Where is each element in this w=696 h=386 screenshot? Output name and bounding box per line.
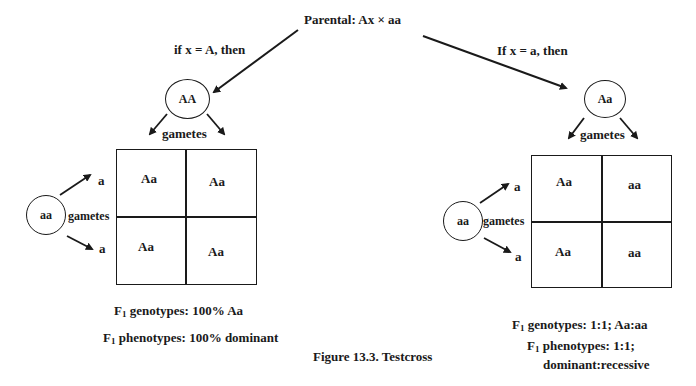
right-other-parent-circle: aa bbox=[443, 201, 483, 241]
right-parent-genotype: Aa bbox=[598, 92, 613, 107]
left-gametes-side-label: gametes bbox=[68, 210, 109, 222]
right-cell-r1c1: Aa bbox=[556, 175, 572, 188]
left-cell-r1c1: Aa bbox=[141, 172, 157, 185]
left-gametes-top-label: gametes bbox=[162, 127, 207, 140]
left-side-gamete-2: a bbox=[99, 242, 106, 255]
arrow-to-left-parent bbox=[214, 30, 298, 92]
right-grid-hline bbox=[532, 221, 671, 223]
right-cell-r2c2: aa bbox=[628, 246, 641, 259]
parental-label: Parental: Ax × aa bbox=[304, 13, 401, 26]
right-phenotypes-line2: dominant:recessive bbox=[543, 358, 650, 371]
right-side-gamete-1: a bbox=[514, 180, 521, 193]
arrow-left-gamete-2 bbox=[207, 114, 224, 134]
left-genotypes-summary: F1 genotypes: 100% Aa bbox=[114, 304, 243, 319]
left-genotypes-prefix: F bbox=[114, 303, 122, 318]
left-side-gamete-1: a bbox=[98, 174, 105, 187]
right-genotypes-text: genotypes: 1:1; Aa:aa bbox=[524, 317, 647, 332]
right-phenotypes-summary: F1 phenotypes: 1:1; bbox=[527, 339, 635, 354]
right-genotypes-prefix: F bbox=[512, 317, 520, 332]
left-genotypes-text: genotypes: 100% Aa bbox=[126, 303, 243, 318]
left-other-parent-circle: aa bbox=[26, 195, 66, 235]
right-parent-circle: Aa bbox=[584, 80, 626, 118]
left-phenotypes-summary: F1 phenotypes: 100% dominant bbox=[103, 331, 278, 346]
right-side-gamete-2: a bbox=[515, 250, 522, 263]
right-gametes-top-label: gametes bbox=[580, 128, 625, 141]
right-cell-r2c1: Aa bbox=[555, 245, 571, 258]
left-other-parent-genotype: aa bbox=[40, 208, 52, 223]
right-genotypes-summary: F1 genotypes: 1:1; Aa:aa bbox=[512, 318, 648, 333]
left-grid-hline bbox=[117, 216, 256, 218]
left-parent-genotype: AA bbox=[179, 92, 196, 107]
right-gametes-side-label: gametes bbox=[483, 215, 524, 227]
right-cell-r1c2: aa bbox=[628, 178, 641, 191]
arrow-right-side-gamete-2 bbox=[484, 238, 510, 252]
left-punnett-square: Aa Aa Aa Aa bbox=[116, 149, 257, 285]
left-cell-r2c2: Aa bbox=[208, 245, 224, 258]
right-phenotypes-text: phenotypes: 1:1; bbox=[539, 338, 634, 353]
left-cell-r2c1: Aa bbox=[138, 240, 154, 253]
left-phenotypes-prefix: F bbox=[103, 330, 111, 345]
left-condition-label: if x = A, then bbox=[174, 43, 245, 56]
right-phenotypes-prefix: F bbox=[527, 338, 535, 353]
left-cell-r1c2: Aa bbox=[209, 175, 225, 188]
arrow-left-side-gamete-1 bbox=[60, 175, 90, 195]
left-parent-circle: AA bbox=[165, 79, 210, 119]
right-punnett-square: Aa aa Aa aa bbox=[531, 155, 672, 288]
right-other-parent-genotype: aa bbox=[457, 214, 469, 229]
left-phenotypes-text: phenotypes: 100% dominant bbox=[115, 330, 278, 345]
right-condition-label: If x = a, then bbox=[497, 44, 568, 57]
arrow-right-side-gamete-1 bbox=[480, 184, 508, 203]
figure-caption: Figure 13.3. Testcross bbox=[313, 350, 432, 363]
arrow-left-side-gamete-2 bbox=[67, 236, 92, 249]
